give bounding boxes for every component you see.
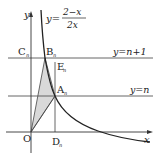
label-dn: D n [52, 136, 62, 148]
curve-equation: y= 2−x 2x [45, 7, 86, 30]
equation-prefix: y= [45, 13, 60, 24]
y-axis-label: y [23, 9, 30, 20]
label-en: E n [57, 61, 66, 73]
label-an: A n [56, 84, 67, 96]
svg-text:n: n [63, 67, 66, 73]
curve [41, 10, 150, 142]
svg-text:n: n [26, 52, 29, 58]
label-y-n: y=n [129, 84, 149, 95]
label-y-n-plus-1: y=n+1 [112, 46, 146, 57]
equation-numerator: 2−x [62, 7, 81, 17]
svg-text:C: C [18, 46, 26, 57]
svg-text:n: n [64, 90, 67, 96]
label-cn: C n [18, 46, 29, 58]
equation-denominator: 2x [66, 20, 78, 30]
label-bn: B n [46, 46, 56, 58]
svg-text:n: n [59, 142, 62, 148]
svg-text:n: n [53, 52, 56, 58]
x-axis-label: x [144, 134, 150, 145]
origin-label: O [23, 133, 31, 144]
diagram-canvas: y y= 2−x 2x C n B n E n A n D n y=n+1 y=… [0, 0, 160, 157]
shaded-triangle [31, 58, 55, 132]
